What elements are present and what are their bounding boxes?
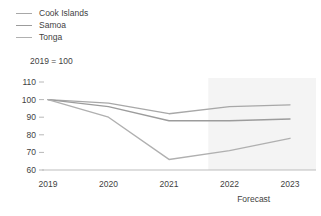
y-axis-tick-label: 80	[27, 130, 37, 140]
y-axis-tick-label: 100	[22, 95, 36, 105]
y-axis-tick-label: 90	[27, 112, 37, 122]
y-axis-tick-label: 110	[22, 77, 36, 87]
y-axis-tick-label: 60	[27, 165, 37, 175]
x-axis-tick-label: 2019	[39, 179, 58, 189]
x-axis-tick-label: 2021	[160, 179, 179, 189]
chart-container: Cook Islands Samoa Tonga 2019 = 100 1101…	[0, 0, 321, 216]
x-axis-ticks: 20192020202120222023	[39, 179, 300, 189]
x-axis-tick-label: 2023	[281, 179, 300, 189]
x-axis-tick-label: 2022	[220, 179, 239, 189]
y-axis-ticks: 11010090807060	[22, 77, 44, 175]
forecast-label: Forecast	[237, 194, 271, 204]
y-axis-tick-label: 70	[27, 147, 37, 157]
chart-plot-area: 11010090807060 20192020202120222023 Fore…	[0, 0, 321, 216]
x-axis-tick-label: 2020	[99, 179, 118, 189]
forecast-shaded-region	[208, 78, 316, 170]
